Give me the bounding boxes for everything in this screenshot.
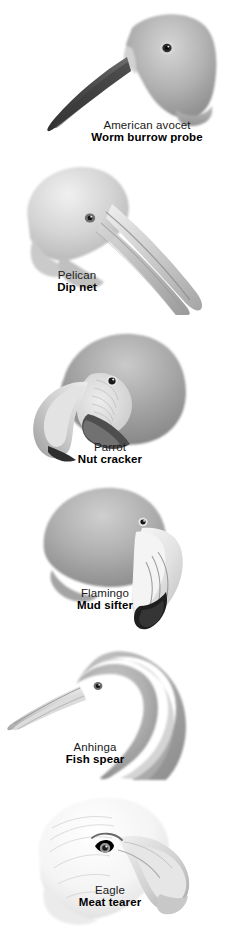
eagle-brow xyxy=(92,834,122,840)
common-name-parrot: Parrot xyxy=(40,442,180,454)
panel-flamingo: Flamingo Mud sifter xyxy=(0,470,232,630)
avocet-eye xyxy=(162,44,171,52)
function-eagle: Meat tearer xyxy=(40,897,180,909)
common-name-pelican: Pelican xyxy=(22,270,132,282)
flamingo-eye xyxy=(140,520,145,525)
caption-parrot: Parrot Nut cracker xyxy=(40,442,180,466)
caption-american-avocet: American avocet Worm burrow probe xyxy=(62,120,232,144)
common-name-eagle: Eagle xyxy=(40,885,180,897)
bird-beak-figure: American avocet Worm burrow probe xyxy=(0,0,232,927)
caption-eagle: Eagle Meat tearer xyxy=(40,885,180,909)
caption-flamingo: Flamingo Mud sifter xyxy=(35,588,175,612)
caption-pelican: Pelican Dip net xyxy=(22,270,132,294)
common-name-anhinga: Anhinga xyxy=(30,742,160,754)
panel-anhinga: Anhinga Fish spear xyxy=(0,630,232,790)
panel-pelican: Pelican Dip net xyxy=(0,160,232,315)
function-american-avocet: Worm burrow probe xyxy=(62,132,232,144)
panel-eagle: Eagle Meat tearer xyxy=(0,790,232,927)
eagle-eye xyxy=(100,843,110,853)
anhinga-eye xyxy=(94,682,103,690)
panel-american-avocet: American avocet Worm burrow probe xyxy=(0,0,232,155)
pelican-eye xyxy=(85,213,95,222)
panel-parrot: Parrot Nut cracker xyxy=(0,320,232,475)
function-parrot: Nut cracker xyxy=(40,454,180,466)
function-anhinga: Fish spear xyxy=(30,754,160,766)
function-flamingo: Mud sifter xyxy=(35,600,175,612)
parrot-eye xyxy=(108,378,115,385)
caption-anhinga: Anhinga Fish spear xyxy=(30,742,160,766)
function-pelican: Dip net xyxy=(22,282,132,294)
anhinga-illustration xyxy=(0,630,232,790)
common-name-american-avocet: American avocet xyxy=(62,120,232,132)
common-name-flamingo: Flamingo xyxy=(35,588,175,600)
